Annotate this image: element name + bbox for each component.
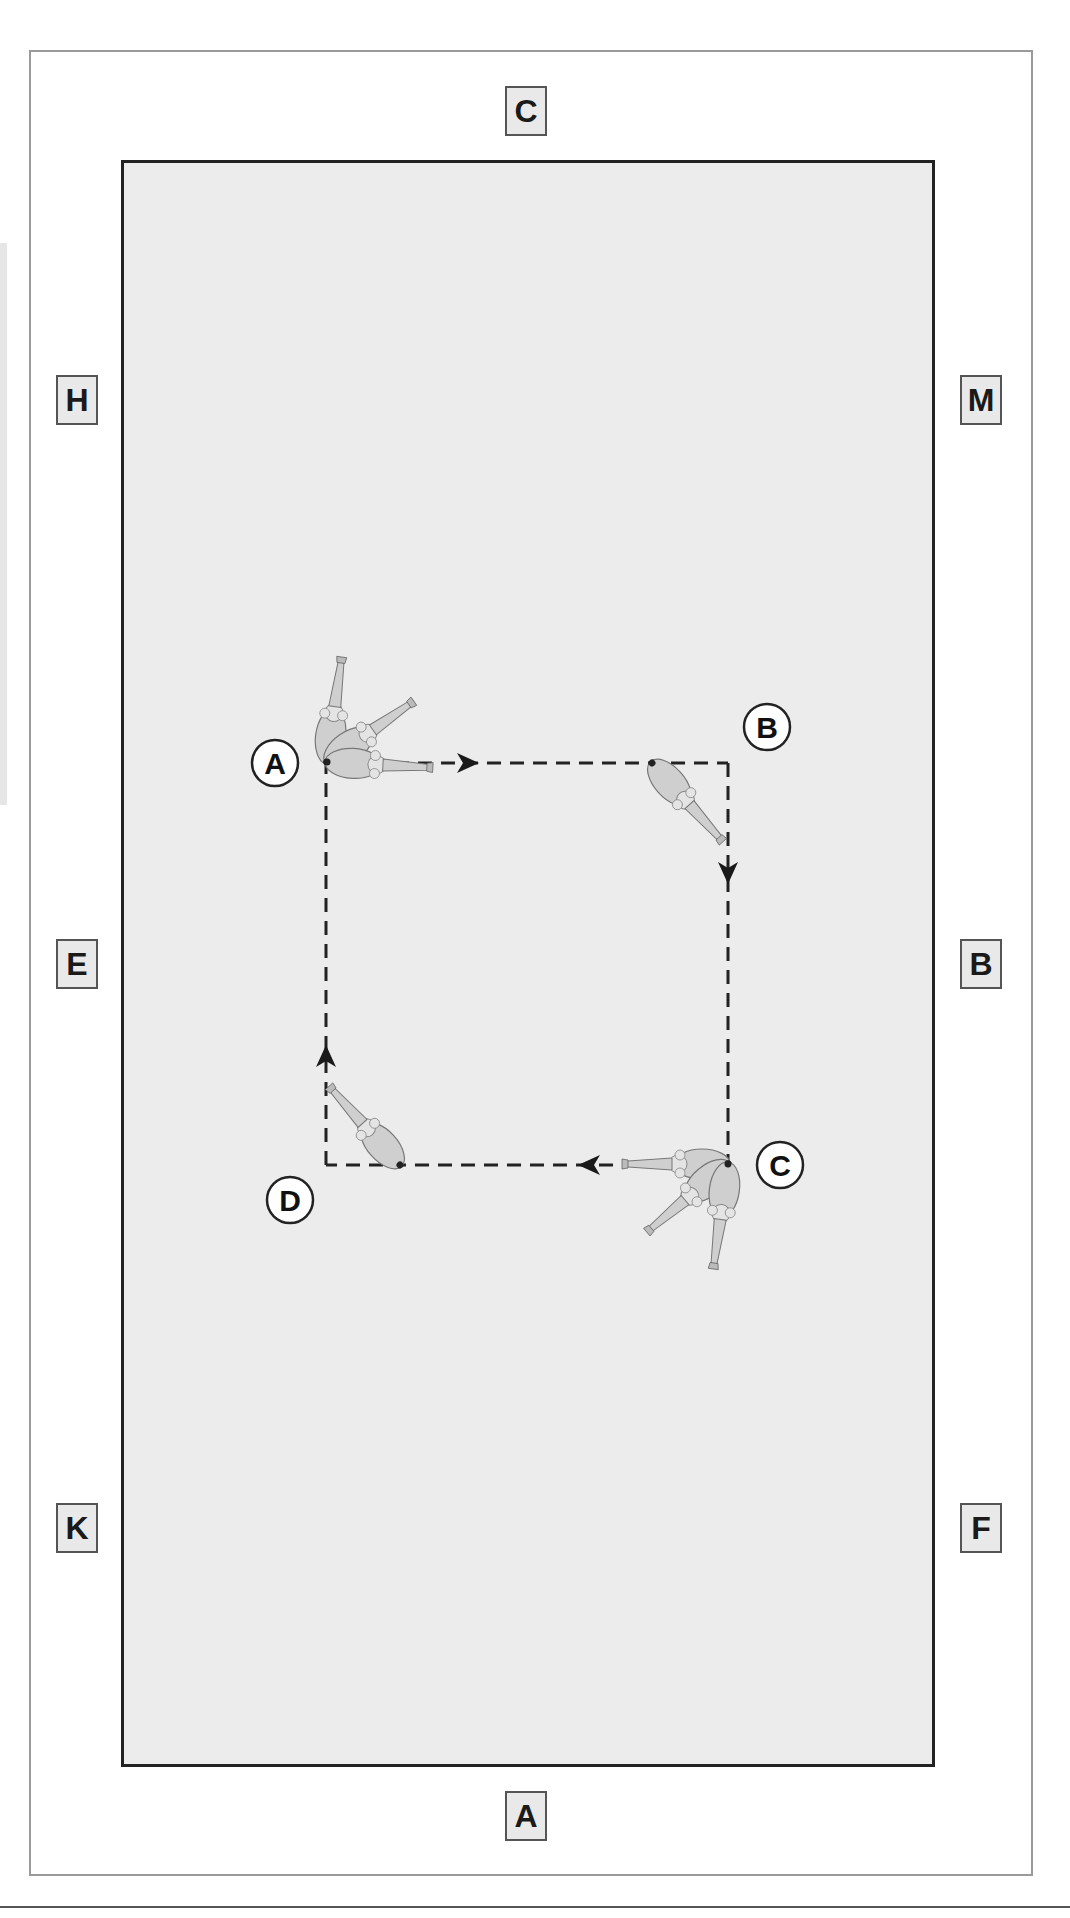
horse-figure-d: [318, 1076, 414, 1177]
dashed-square-path: [326, 763, 728, 1165]
svg-text:D: D: [279, 1184, 301, 1217]
path-diagram: A B C D: [0, 0, 1070, 1918]
arrow-left-icon: [578, 1155, 600, 1175]
point-label-c: C: [757, 1142, 803, 1188]
svg-text:A: A: [264, 747, 286, 780]
point-label-b: B: [744, 704, 790, 750]
svg-text:C: C: [769, 1149, 791, 1182]
horse-figure-b: [639, 750, 735, 851]
point-label-d: D: [267, 1177, 313, 1223]
point-label-a: A: [252, 740, 298, 786]
arrow-right-icon: [457, 753, 479, 773]
svg-text:B: B: [756, 711, 778, 744]
horse-figure-a-3: [323, 747, 434, 783]
